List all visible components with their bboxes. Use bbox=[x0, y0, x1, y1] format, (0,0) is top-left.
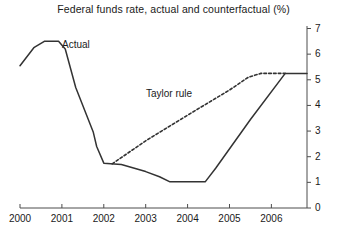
x-axis-ticks bbox=[20, 204, 271, 208]
x-tick-label: 2001 bbox=[42, 213, 82, 224]
y-tick-label: 7 bbox=[315, 23, 335, 34]
data-series bbox=[20, 41, 307, 182]
x-tick-label: 2004 bbox=[168, 213, 208, 224]
x-tick-label: 2005 bbox=[209, 213, 249, 224]
y-tick-label: 6 bbox=[315, 48, 335, 59]
series-line-taylor-rule bbox=[112, 73, 285, 164]
x-tick-label: 2002 bbox=[84, 213, 124, 224]
series-line-actual bbox=[20, 41, 307, 182]
plot-area bbox=[0, 0, 347, 244]
y-tick-label: 1 bbox=[315, 176, 335, 187]
y-tick-label: 2 bbox=[315, 151, 335, 162]
y-tick-label: 4 bbox=[315, 99, 335, 110]
y-axis-ticks bbox=[307, 29, 311, 209]
x-tick-label: 2003 bbox=[126, 213, 166, 224]
chart-container: Federal funds rate, actual and counterfa… bbox=[0, 0, 347, 244]
axes bbox=[20, 26, 307, 208]
y-tick-label: 5 bbox=[315, 74, 335, 85]
y-tick-label: 0 bbox=[315, 202, 335, 213]
y-tick-label: 3 bbox=[315, 125, 335, 136]
x-tick-label: 2006 bbox=[251, 213, 291, 224]
x-tick-label: 2000 bbox=[0, 213, 40, 224]
